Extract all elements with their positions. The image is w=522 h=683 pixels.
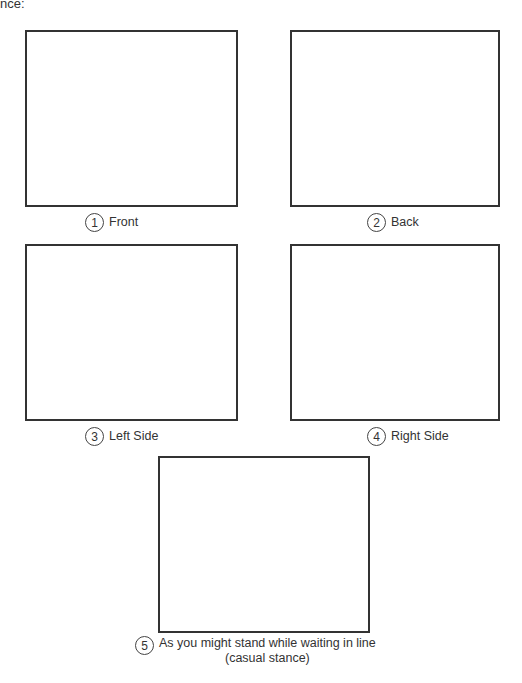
drawing-box-right-side <box>290 244 500 421</box>
caption-line-2: (casual stance) <box>225 651 310 665</box>
caption-right-side: 4 Right Side <box>367 427 449 446</box>
caption-line-1: As you might stand while waiting in line <box>159 636 376 650</box>
number-circle: 3 <box>85 427 104 446</box>
number-circle: 4 <box>367 427 386 446</box>
caption-back: 2 Back <box>367 213 419 232</box>
caption-label: Left Side <box>109 427 158 446</box>
caption-front: 1 Front <box>85 213 138 232</box>
caption-casual-stance: 5 As you might stand while waiting in li… <box>135 636 376 666</box>
caption-left-side: 3 Left Side <box>85 427 158 446</box>
drawing-box-left-side <box>25 244 238 421</box>
drawing-box-casual-stance <box>158 456 370 633</box>
drawing-box-back <box>290 30 500 207</box>
number-circle: 1 <box>85 213 104 232</box>
number-circle: 2 <box>367 213 386 232</box>
caption-label: As you might stand while waiting in line… <box>159 636 376 666</box>
caption-label: Right Side <box>391 427 449 446</box>
number-circle: 5 <box>135 636 154 655</box>
drawing-box-front <box>25 30 238 207</box>
caption-label: Front <box>109 213 138 232</box>
header-text-fragment: nce: <box>0 0 25 11</box>
caption-label: Back <box>391 213 419 232</box>
